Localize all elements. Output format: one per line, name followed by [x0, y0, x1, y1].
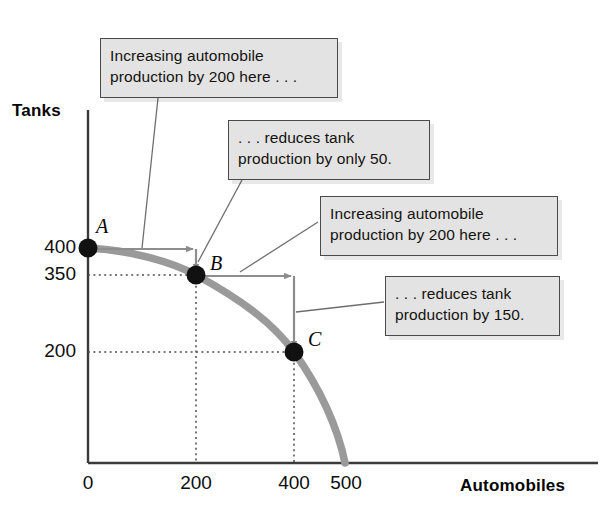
ppf-curve — [88, 248, 345, 463]
x-tick-0: 0 — [58, 472, 118, 494]
leader-line-a-to-b-loss — [198, 180, 242, 262]
y-tick-350: 350 — [14, 263, 76, 285]
data-point-a — [79, 239, 98, 258]
x-tick-500: 500 — [316, 472, 376, 494]
data-point-c — [285, 343, 304, 362]
point-label-c: C — [308, 328, 321, 351]
callout-a-to-b-gain: Increasing automobile production by 200 … — [100, 38, 338, 98]
point-label-a: A — [96, 215, 108, 238]
point-label-b: B — [210, 252, 222, 275]
y-tick-400: 400 — [14, 236, 76, 258]
x-axis-title: Automobiles — [460, 476, 565, 496]
y-tick-200: 200 — [14, 340, 76, 362]
leader-line-b-to-c-gain — [240, 222, 318, 272]
callout-a-to-b-loss: . . . reduces tank production by only 50… — [228, 120, 430, 180]
y-axis-title: Tanks — [12, 101, 61, 121]
leader-line-a-to-b-gain — [142, 98, 158, 248]
callout-b-to-c-gain: Increasing automobile production by 200 … — [320, 196, 558, 256]
leader-line-b-to-c-loss — [296, 302, 384, 312]
data-point-b — [187, 266, 206, 285]
x-tick-400: 400 — [264, 472, 324, 494]
x-tick-200: 200 — [166, 472, 226, 494]
production-possibilities-frontier-figure: Tanks Automobiles 400 350 200 0 200 400 … — [0, 0, 606, 518]
callout-b-to-c-loss: . . . reduces tank production by 150. — [385, 276, 560, 336]
